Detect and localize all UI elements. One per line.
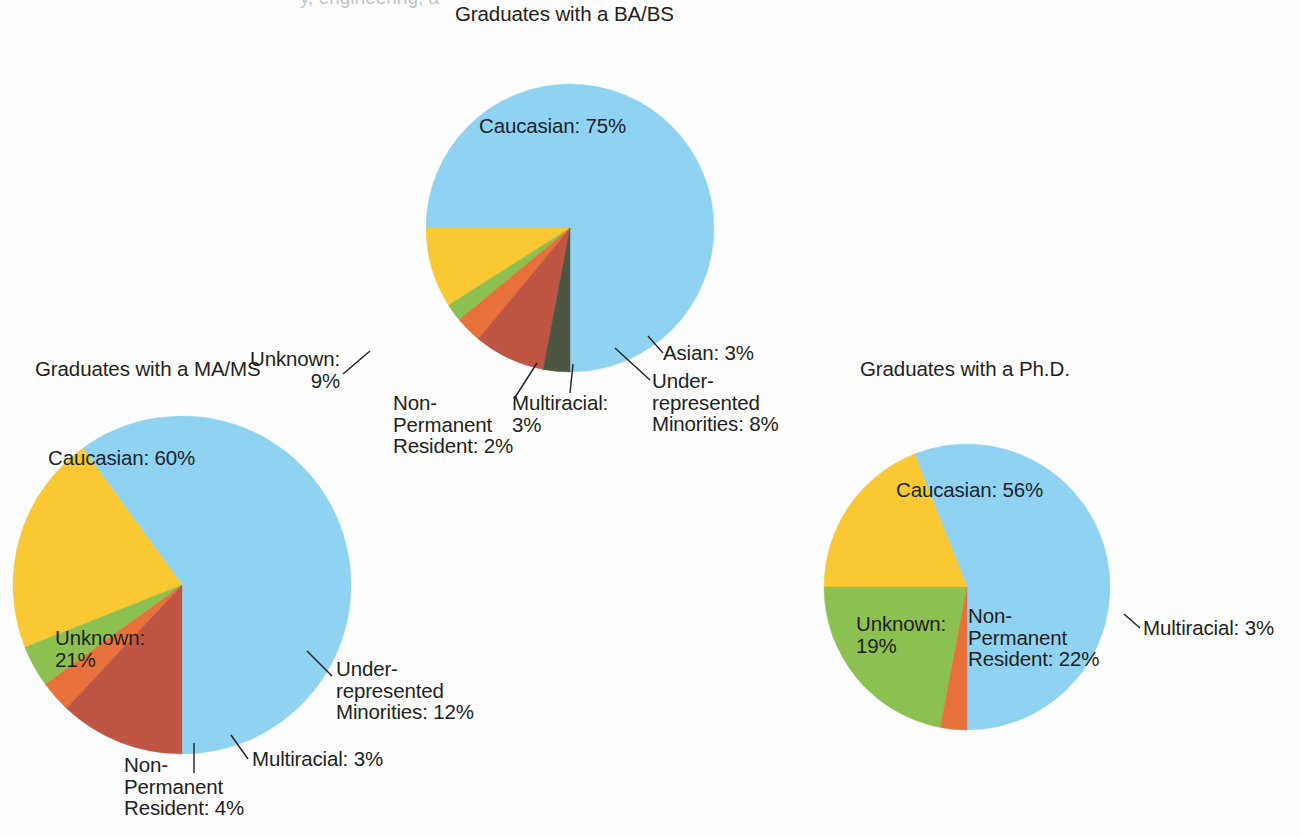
chart-title-ma-ms: Graduates with a MA/MS [35,357,261,381]
leader-asian-ba-bs [645,333,669,357]
pie-chart-figure: y, engineering, a Graduates with a BA/BS… [0,0,1300,836]
leader-multiracial-phd [1120,610,1146,632]
leader-non-permanent-resident-ma-ms [188,740,204,776]
label-under-represented-minorities-ba-bs: Under- represented Minorities: 8% [652,370,779,435]
label-non-permanent-resident-ba-bs: Non- Permanent Resident: 2% [393,392,513,457]
leader-under-represented-minorities-ma-ms [304,648,336,680]
leader-multiracial-ba-bs [566,362,586,396]
label-unknown-ma-ms: Unknown: 21% [55,627,145,670]
label-caucasian-ba-bs: Caucasian: 75% [479,115,626,137]
clipped-top-text: y, engineering, a [300,0,439,9]
leader-unknown-ba-bs [340,348,390,378]
label-multiracial-ma-ms: Multiracial: 3% [252,748,383,770]
label-caucasian-ma-ms: Caucasian: 60% [48,447,195,469]
chart-title-phd: Graduates with a Ph.D. [860,357,1070,381]
label-unknown-phd: Unknown: 19% [856,613,946,656]
label-multiracial-phd: Multiracial: 3% [1143,617,1274,639]
label-asian-ba-bs: Asian: 3% [663,342,754,364]
label-non-permanent-resident-ma-ms: Non- Permanent Resident: 4% [124,754,244,819]
leader-multiracial-ma-ms [228,732,254,762]
label-caucasian-phd: Caucasian: 56% [896,479,1043,501]
label-multiracial-ba-bs: Multiracial: 3% [512,392,608,435]
chart-title-ba-bs: Graduates with a BA/BS [455,2,674,26]
label-under-represented-minorities-ma-ms: Under- represented Minorities: 12% [336,658,474,723]
label-non-permanent-resident-phd: Non- Permanent Resident: 22% [968,605,1099,670]
